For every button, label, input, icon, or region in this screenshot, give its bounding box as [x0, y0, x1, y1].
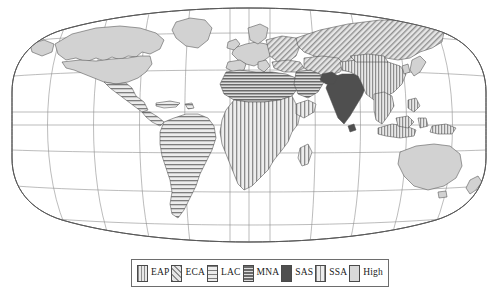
map-canvas — [0, 0, 498, 250]
region-sulawesi — [418, 118, 428, 128]
legend-swatch-eap — [137, 265, 148, 282]
legend-entry-lac: LAC — [207, 265, 241, 282]
legend-label-eca: ECA — [185, 268, 205, 278]
legend-label-ssa: SSA — [329, 268, 347, 278]
legend-label-sas: SAS — [295, 268, 313, 278]
legend-label-mna: MNA — [257, 268, 280, 278]
legend-entry-eca: ECA — [171, 265, 205, 282]
legend-swatch-eca — [171, 265, 182, 282]
legend-entry-sas: SAS — [281, 265, 313, 282]
legend-swatch-mna — [243, 265, 254, 282]
legend-label-lac: LAC — [221, 268, 241, 278]
legend-entry-eap: EAP — [137, 265, 170, 282]
map-legend: EAP ECA LAC MNA SAS SSA High — [131, 259, 389, 287]
legend-swatch-ssa — [315, 265, 326, 282]
legend-entry-ssa: SSA — [315, 265, 347, 282]
legend-label-eap: EAP — [151, 268, 170, 278]
legend-swatch-high — [349, 265, 360, 282]
world-map-figure: EAP ECA LAC MNA SAS SSA High — [0, 0, 498, 307]
world-map-svg — [0, 0, 498, 250]
region-north-africa — [220, 70, 298, 102]
region-tasmania — [438, 191, 447, 198]
legend-label-high: High — [363, 268, 383, 278]
legend-swatch-sas — [281, 265, 292, 282]
legend-entry-mna: MNA — [243, 265, 280, 282]
legend-entry-high: High — [349, 265, 383, 282]
legend-swatch-lac — [207, 265, 218, 282]
